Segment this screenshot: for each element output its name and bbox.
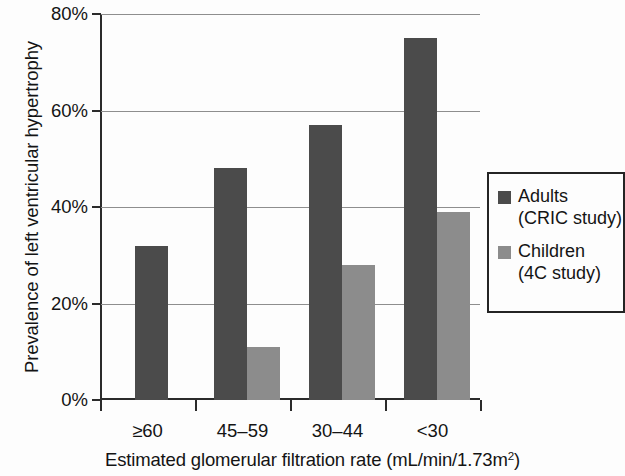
legend-sublabel: (CRIC study)	[518, 208, 622, 230]
y-tick-label: 20%	[51, 292, 88, 314]
bar-adults-2	[309, 125, 342, 400]
x-tick-label: 45–59	[217, 420, 268, 442]
x-tick-mark	[195, 400, 197, 411]
x-tick-mark	[480, 400, 482, 411]
bar-adults-1	[214, 168, 247, 400]
y-axis-title: Prevalence of left ventricular hypertrop…	[21, 7, 43, 407]
x-tick-mark	[290, 400, 292, 411]
bar-group	[290, 14, 385, 400]
bar-children-3	[437, 212, 470, 400]
x-axis-title: Estimated glomerular filtration rate (mL…	[0, 449, 625, 471]
legend-box: Adults(CRIC study)Children(4C study)	[487, 172, 625, 313]
legend-entry-children: Children(4C study)	[498, 241, 623, 285]
bar-group	[100, 14, 195, 400]
y-tick-label: 60%	[51, 99, 88, 121]
x-axis-title-tail: )	[514, 449, 520, 470]
bar-children-1	[247, 347, 280, 400]
bar-children-2	[342, 265, 375, 400]
legend-label: Children(4C study)	[518, 241, 601, 285]
legend-swatch-adults	[498, 191, 511, 204]
legend-label: Adults(CRIC study)	[518, 186, 622, 230]
legend-sublabel: (4C study)	[518, 263, 601, 285]
y-tick-label: 80%	[51, 3, 88, 25]
x-tick-label: 30–44	[312, 420, 363, 442]
y-tick-label: 0%	[61, 389, 88, 411]
bar-adults-0	[135, 246, 168, 400]
x-tick-mark	[100, 400, 102, 411]
bar-adults-3	[404, 38, 437, 400]
plot-area: 0%20%40%60%80%	[100, 14, 480, 400]
chart-figure: Prevalence of left ventricular hypertrop…	[0, 0, 625, 476]
legend-entry-adults: Adults(CRIC study)	[498, 186, 623, 230]
y-tick-label: 40%	[51, 196, 88, 218]
x-tick-label: <30	[417, 420, 448, 442]
x-tick-label: ≥60	[132, 420, 163, 442]
x-axis-title-main: Estimated glomerular filtration rate (mL…	[105, 449, 508, 470]
x-tick-mark	[385, 400, 387, 411]
bar-group	[385, 14, 480, 400]
bars-group	[100, 14, 480, 400]
bar-group	[195, 14, 290, 400]
legend-swatch-children	[498, 246, 511, 259]
